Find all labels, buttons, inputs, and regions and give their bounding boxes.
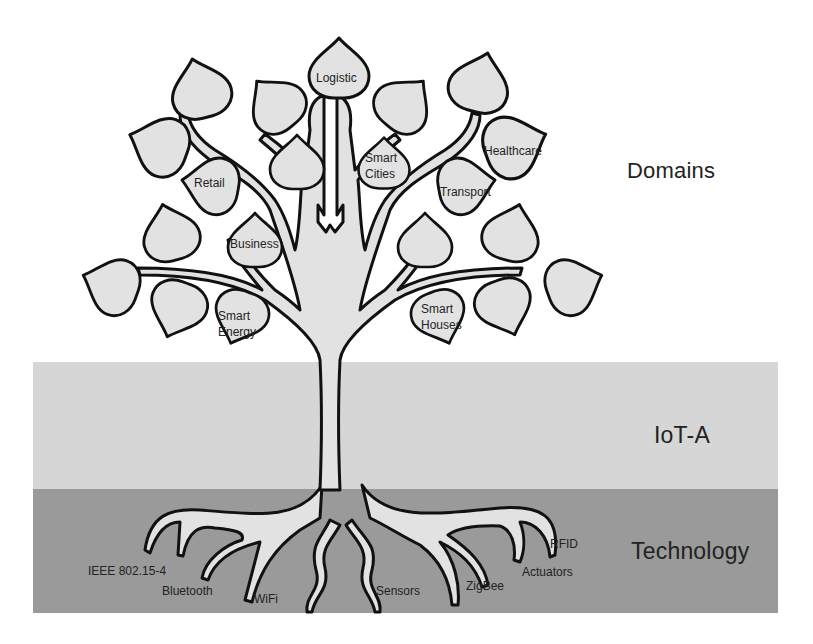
- root-label-actuators: Actuators: [522, 565, 573, 579]
- leaf-label-retail: Retail: [194, 176, 225, 190]
- root-label-zigbee: ZigBee: [466, 579, 504, 593]
- leaf-label-logistic: Logistic: [316, 71, 357, 85]
- layer-label-technology: Technology: [631, 538, 749, 565]
- root-label-wifi: WiFi: [254, 592, 278, 606]
- leaf-label-smart-cities-1: Smart: [365, 151, 398, 165]
- leaf-label-smart-houses-1: Smart: [421, 302, 454, 316]
- leaf-label-smart-houses-2: Houses: [421, 318, 462, 332]
- leaf-label-business: Business: [230, 237, 279, 251]
- leaf-label-smart-energy-1: Smart: [218, 309, 251, 323]
- root-label-rfid: RFID: [550, 537, 578, 551]
- technology-root-labels: IEEE 802.15-4 Bluetooth WiFi Sensors Zig…: [88, 537, 578, 606]
- root-label-ieee-802-15-4: IEEE 802.15-4: [88, 564, 166, 578]
- root-label-sensors: Sensors: [376, 584, 420, 598]
- layer-label-domains: Domains: [627, 158, 715, 184]
- root-label-bluetooth: Bluetooth: [162, 584, 213, 598]
- leaf-label-healthcare: Healthcare: [484, 144, 542, 158]
- leaf-label-smart-cities-2: Cities: [365, 167, 395, 181]
- leaf-label-transport: Transport: [440, 185, 492, 199]
- layer-label-iot-a: IoT-A: [654, 422, 710, 449]
- leaf-label-smart-energy-2: Energy: [218, 325, 256, 339]
